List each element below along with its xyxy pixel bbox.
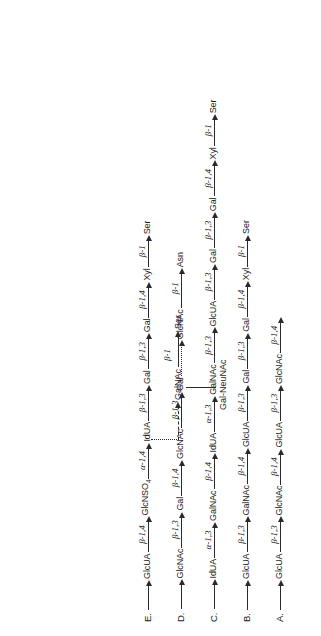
arrow-C-2: α-1,3 — [198, 522, 218, 558]
bond-label-B-2: β-1,3 — [237, 525, 246, 544]
arrow-B-8: β-1,3 — [231, 333, 251, 369]
pathway-row-E: E. GlcUA β-1,4 GlcNSO4 α-1,4 IdUA β-1,3 … — [118, 221, 152, 622]
arrow-C-12: β-1,3 — [198, 212, 218, 248]
bond-label-B-6: β-1,3 — [237, 393, 246, 412]
bond-label-C-12: β-1,3 — [204, 221, 213, 240]
arrow-B-10: β-1,4 — [231, 281, 251, 317]
branch-dashed-horizontal — [178, 406, 179, 440]
branch-arrowhead-icon — [175, 399, 181, 408]
node-B-7: Gal — [242, 370, 251, 384]
arrow-C-16: β-1 — [198, 114, 218, 146]
pathway-row-C: C. IdUA α-1,3 GalNAc β-1,4 IdUA α-1,3 Ga… — [184, 100, 218, 622]
bond-label-A-6: β-1,3 — [270, 394, 279, 413]
row-label-D: D. — [176, 613, 186, 623]
node-C-7: GalNAc — [209, 364, 218, 394]
branch-node-ser: Ser — [174, 315, 183, 329]
bond-label-A-4: β-1,4 — [270, 457, 279, 476]
bond-label-E-4: α-1,4 — [138, 451, 147, 470]
arrow-D-0 — [165, 580, 185, 610]
pathway-row-D: D. GlcNAc β-1,3 Gal β-1,4 GlcNAc β-1,3 G… — [151, 252, 185, 622]
branch-node-galnac: GalNAc — [174, 369, 183, 400]
arrow-E-4: α-1,4 — [132, 443, 152, 479]
node-E-3-sub: 4 — [145, 480, 152, 484]
bond-label-D-10: β-1 — [171, 282, 180, 294]
arrow-E-6: β-1,3 — [132, 385, 152, 421]
arrow-D-2: β-1,3 — [165, 512, 185, 548]
node-E-9: Gal — [143, 319, 152, 333]
bond-label-B-8: β-1,3 — [237, 341, 246, 360]
arrow-B-0 — [231, 580, 251, 610]
row-label-E: E. — [143, 613, 153, 622]
arrow-D-4: β-1,4 — [165, 460, 185, 496]
branch-vertical-link-galneunac — [186, 387, 216, 388]
node-E-1: GlcUA — [143, 554, 152, 580]
arrow-A-0 — [264, 580, 284, 610]
bond-label-E-10: β-1,4 — [138, 290, 147, 309]
bond-label-A-8: β-1,4 — [270, 326, 279, 345]
node-A-1: GlcUA — [275, 554, 284, 580]
bond-label-C-2: α-1,3 — [204, 530, 213, 549]
arrow-B-2: β-1,3 — [231, 517, 251, 553]
branch-dashed-connector — [151, 439, 179, 440]
arrow-E-8: β-1,3 — [132, 333, 152, 369]
node-A-3: GlcNAc — [275, 486, 284, 516]
arrow-D-10: β-1 — [165, 268, 185, 308]
node-D-3: Gal — [176, 497, 185, 511]
arrow-E-10: β-1,4 — [132, 282, 152, 318]
bond-label-E-8: β-1,3 — [138, 342, 147, 361]
node-E-11: Xyl — [143, 268, 152, 280]
arrow-C-0 — [198, 580, 218, 610]
arrow-E-2: β-1,4 — [132, 517, 152, 553]
node-A-5: GlcUA — [275, 422, 284, 448]
arrow-C-8: β-1,3 — [198, 327, 218, 363]
node-C-3: GalNAc — [209, 490, 218, 520]
bond-label-B-12: β-1 — [237, 245, 246, 257]
bond-label-C-4: β-1,4 — [204, 462, 213, 481]
bond-label-A-2: β-1,3 — [270, 525, 279, 544]
bond-label-C-6: α-1,3 — [204, 404, 213, 423]
bond-label-C-14: β-1,4 — [204, 169, 213, 188]
node-B-3: GalNAc — [242, 485, 251, 515]
node-D-11: Asn — [176, 252, 185, 267]
arrow-B-6: β-1,3 — [231, 385, 251, 421]
row-label-C: C. — [209, 613, 219, 623]
arrow-A-2: β-1,3 — [264, 517, 284, 553]
node-C-5: IdUA — [209, 433, 218, 453]
node-C-17: Ser — [209, 100, 218, 114]
node-C-1: IdUA — [209, 559, 218, 579]
figure-rotation-wrapper: A. GlcUA β-1,3 GlcNAc β-1,4 GlcUA β-1,3 … — [0, 0, 321, 636]
branch-arrowhead-ser-icon — [175, 331, 181, 337]
arrow-A-8: β-1,4 — [264, 317, 284, 353]
arrow-C-10: β-1,3 — [198, 264, 218, 300]
node-E-5: IdUA — [143, 422, 152, 442]
row-label-B: B. — [242, 613, 252, 622]
node-B-9: Gal — [242, 318, 251, 332]
node-C-11: Gal — [209, 249, 218, 263]
bond-label-E-6: β-1,3 — [138, 394, 147, 413]
node-C-15: Xyl — [209, 147, 218, 159]
node-B-5: GlcUA — [242, 422, 251, 448]
arrow-C-6: α-1,3 — [198, 396, 218, 432]
bond-label-E-2: β-1,4 — [138, 525, 147, 544]
row-label-A: A. — [275, 613, 285, 622]
node-B-11: Xyl — [242, 268, 251, 280]
glycan-linkage-figure: A. GlcUA β-1,3 GlcNAc β-1,4 GlcUA β-1,3 … — [0, 0, 321, 636]
bond-label-D-4: β-1,4 — [171, 469, 180, 488]
arrow-A-4: β-1,4 — [264, 449, 284, 485]
bond-label-B-10: β-1,4 — [237, 290, 246, 309]
node-B-13: Ser — [242, 220, 251, 234]
pathway-row-A: A. GlcUA β-1,3 GlcNAc β-1,4 GlcUA β-1,3 … — [250, 316, 284, 622]
branch-node-gal-neunac: Gal-NeuNAc — [219, 359, 228, 410]
node-C-13: Gal — [209, 197, 218, 211]
node-C-9: GlcUA — [209, 301, 218, 327]
node-E-3-base: GlcNSO — [140, 483, 150, 515]
node-E-13: Ser — [143, 221, 152, 235]
bond-label-C-16: β-1 — [204, 124, 213, 136]
node-D-1: GlcNAc — [176, 549, 185, 579]
bond-label-C-10: β-1,3 — [204, 273, 213, 292]
arrow-B-12: β-1 — [231, 235, 251, 267]
branch-bond-label-beta1: β-1 — [163, 349, 172, 361]
bond-label-D-2: β-1,3 — [171, 520, 180, 539]
node-B-1: GlcUA — [242, 554, 251, 580]
branch-bond-text: β-1 — [162, 349, 172, 361]
